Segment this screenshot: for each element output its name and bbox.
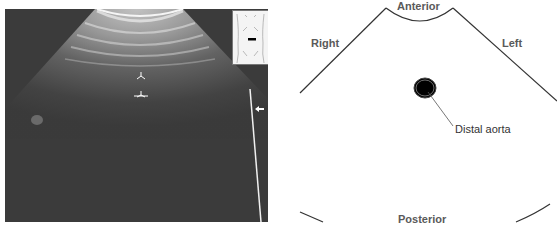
ultrasound-scan <box>5 9 268 222</box>
sector-edge-left <box>453 8 557 101</box>
label-left: Left <box>502 37 522 49</box>
body-marker-inset <box>232 10 268 65</box>
leader-line <box>428 92 453 126</box>
sector-outline <box>280 0 557 232</box>
label-right: Right <box>311 37 339 49</box>
ultrasound-image <box>5 9 268 222</box>
probe-marker <box>248 38 256 41</box>
anatomy-diagram: Anterior Right Left Posterior Distal aor… <box>280 0 557 232</box>
label-posterior: Posterior <box>398 213 446 225</box>
label-anterior: Anterior <box>397 0 440 12</box>
torso-icon <box>233 11 268 64</box>
callout-distal-aorta: Distal aorta <box>455 123 511 135</box>
far-field-arc-right <box>516 204 550 222</box>
aorta-icon <box>414 78 436 98</box>
far-field-arc-left <box>300 212 323 222</box>
sector-edge-right <box>300 8 386 93</box>
